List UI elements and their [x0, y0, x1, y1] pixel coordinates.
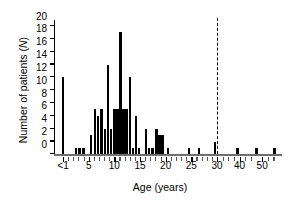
x-tick-minor: [78, 157, 79, 161]
x-tick-minor: [155, 157, 156, 161]
y-tick: [50, 51, 55, 52]
histogram-bar: [158, 135, 160, 154]
y-tick: [50, 140, 55, 141]
y-tick: [50, 38, 55, 39]
y-tick-label: 4: [41, 114, 47, 124]
y-tick-label: 12: [36, 63, 47, 73]
histogram-bar: [148, 148, 150, 154]
histogram-bar: [135, 116, 137, 155]
histogram-bar: [125, 109, 127, 154]
x-tick-label: 20: [160, 161, 171, 171]
x-tick-minor: [207, 157, 208, 161]
y-tick: [50, 153, 55, 154]
x-tick-label: 5: [86, 161, 92, 171]
histogram-bar: [167, 148, 169, 154]
x-tick-minor: [84, 157, 85, 161]
x-tick-minor: [181, 157, 182, 161]
x-tick-minor: [73, 157, 74, 161]
x-axis-title: Age (years): [40, 181, 280, 193]
histogram-bar: [198, 148, 200, 154]
x-tick-minor: [104, 157, 105, 161]
y-tick-label: 6: [41, 101, 47, 111]
histogram-bar: [62, 77, 64, 154]
y-tick-label: 14: [36, 50, 47, 60]
histogram-bar: [155, 129, 157, 155]
x-tick-label: 50: [257, 161, 268, 171]
y-tick: [50, 89, 55, 90]
y-tick-label: 8: [41, 89, 47, 99]
y-tick: [50, 102, 55, 103]
histogram-bar: [214, 142, 216, 155]
y-tick: [50, 115, 55, 116]
histogram-bar: [145, 129, 147, 155]
y-tick-label: 16: [36, 37, 47, 47]
x-tick-minor: [202, 157, 203, 161]
x-tick-minor: [150, 157, 151, 161]
histogram-bar: [255, 148, 257, 154]
y-tick: [50, 76, 55, 77]
x-tick-minor: [94, 157, 95, 161]
histogram-bar: [138, 148, 140, 154]
y-tick-label: 2: [41, 127, 47, 137]
histogram-bar: [100, 109, 102, 154]
y-tick: [50, 128, 55, 129]
histogram-bar: [97, 116, 99, 155]
histogram-bar: [75, 148, 77, 154]
y-tick-label: 20: [36, 12, 47, 22]
y-tick: [50, 63, 55, 64]
y-axis-title: Number of patients (N): [17, 15, 29, 165]
x-tick-minor: [228, 157, 229, 161]
x-tick-label: 30: [211, 161, 222, 171]
plot-area: 02468101214161820 <1510152025304050: [54, 20, 282, 156]
x-tick-minor: [176, 157, 177, 161]
histogram-figure: Number of patients (N) Age (years) 02468…: [0, 0, 293, 205]
histogram-bar: [113, 109, 115, 154]
histogram-bar: [273, 148, 275, 154]
histogram-bar: [132, 148, 134, 154]
histogram-bar: [104, 129, 106, 155]
x-tick-label: 10: [109, 161, 120, 171]
histogram-bar: [90, 135, 92, 154]
y-axis-title-text: Number of patients: [17, 54, 29, 143]
x-tick-label: <1: [57, 161, 68, 171]
histogram-bar: [78, 148, 80, 154]
histogram-bar: [122, 109, 124, 154]
x-tick-minor: [245, 157, 246, 161]
y-tick-label: 18: [36, 24, 47, 34]
y-axis-line: [54, 20, 55, 156]
histogram-bar: [82, 148, 84, 154]
histogram-bar: [188, 148, 190, 154]
x-tick-label: 15: [134, 161, 145, 171]
histogram-bar: [119, 32, 121, 154]
x-tick-minor: [251, 157, 252, 161]
y-tick-label: 10: [36, 76, 47, 86]
x-tick-minor: [268, 157, 269, 161]
x-tick-label: 25: [186, 161, 197, 171]
x-tick-minor: [99, 157, 100, 161]
histogram-bar: [94, 109, 96, 154]
histogram-bar: [107, 65, 109, 155]
x-tick-minor: [125, 157, 126, 161]
x-tick-label: 40: [234, 161, 245, 171]
histogram-bar: [151, 148, 153, 154]
histogram-bar: [236, 148, 238, 154]
histogram-bar: [116, 109, 118, 154]
y-tick: [50, 25, 55, 26]
y-tick-label: 0: [41, 140, 47, 150]
x-tick-minor: [223, 157, 224, 161]
histogram-bar: [129, 77, 131, 154]
x-tick-minor: [273, 157, 274, 161]
histogram-bar: [110, 129, 112, 155]
y-axis-title-symbol: N: [17, 40, 29, 48]
reference-line-30: [217, 18, 218, 154]
histogram-bar: [161, 135, 163, 154]
x-tick-minor: [130, 157, 131, 161]
